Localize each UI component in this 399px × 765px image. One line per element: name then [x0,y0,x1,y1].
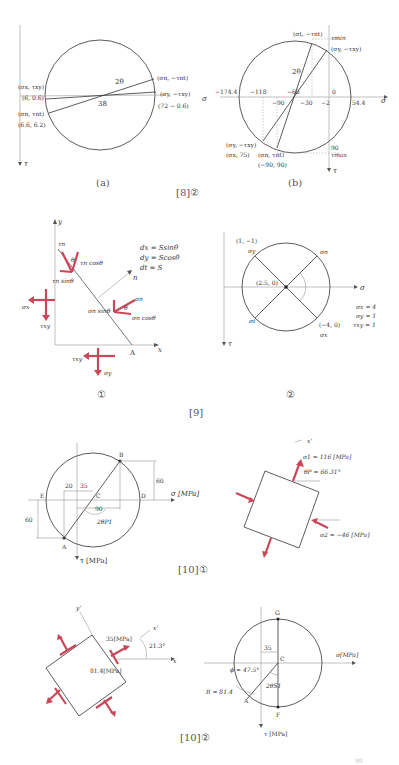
theta-p-label: θP = 66.31° [304,468,341,475]
point-sx-txy: (σx, τxy) [18,83,44,91]
tau-min-label: τmin [331,34,346,41]
sigma-n-sin-label: σn sinθ [88,307,111,314]
mohr-circle-a: τ 2θ 38 (σx, τxy) (6, 0.6) (σn, τnt) (6.… [18,25,190,188]
panel-1-label: ① [97,389,106,400]
sigma-axis-label: σ[MPa] [336,651,359,658]
tau-n-label: τn [58,240,65,247]
tau-axis-label: τ [MPa] [80,557,108,565]
tau-n-cos-label: τn cosθ [80,259,103,266]
principal-stress-element: x' σ1 = 116 [MPa] θP = 66.31° σ2 = −46 [… [236,437,370,558]
x-axis-label: x [173,657,177,664]
radius-label: R = 81.4 [205,688,233,695]
dim-90: 90 [95,505,103,512]
tick-neg-90: −90 [272,99,285,106]
dim-60-left: 60 [25,516,33,523]
x-prime-axis-label: x' [307,437,312,444]
normal-81-4-label: 81.4[MPa] [90,667,122,674]
figure-10-2-caption: [10]② [180,732,210,743]
subfig-b-label: (b) [288,177,302,188]
dim-35: 35 [80,482,88,489]
point-st-neg-tnt: (σt, −τnt) [293,30,323,37]
point-sn-tnt: (σn, τnt) [18,110,44,117]
tick-90: 90 [331,144,339,151]
point-A: A [243,697,249,704]
sigma-y-point-label: σy [248,247,256,255]
tick-neg-2: −2 [321,99,330,106]
phi-label: ϕ = 47.5° [230,666,259,674]
point-sx-txy-value: (6, 0.6) [22,94,44,101]
tau-xy-label-bottom: τxy [72,355,83,363]
tau-axis-label: τ [228,340,232,348]
y-prime-axis-label: y' [75,604,81,612]
sigma-y-label: σy [104,369,112,377]
theta-label-2: θ [124,304,128,311]
tau-axis-label: τ [24,160,28,168]
point-B: B [119,451,124,458]
equation-dx: dx = Ssinθ [140,244,179,252]
figure-canvas: τ 2θ 38 (σx, τxy) (6, 0.6) (σn, τnt) (6.… [0,0,399,765]
mohr-circle-9-2: τ σ (1, −1) σy σn (2.5, 0) σt (−4, 0) σx… [222,232,376,400]
given-sigma-y: σy = 1 [356,312,376,320]
x-axis-label: x [158,346,162,354]
angle-2theta-label: 2θ [115,78,124,86]
point-E: E [40,492,44,499]
mohr-circle-10-1: σ [MPa] τ [MPa] 20 35 90 60 60 A B C D E… [25,443,199,565]
shear-35-label: 35[MPa] [106,635,132,642]
tick-neg-118: −118 [250,88,267,95]
sigma-n-cos-label: σn cosθ [132,314,156,321]
point-A: A [61,543,67,550]
tick-zero: 0 [332,88,336,95]
sigma-axis-label: σ [MPa] [171,490,199,498]
sigma-2-label: σ2 = −46 [MPa] [320,531,370,538]
tick-neg-60: −60 [287,88,300,95]
point-D: D [141,492,146,499]
page-number: 99 [355,757,363,764]
point-A-label: A [129,349,136,357]
sigma-axis-label: σ [381,97,386,105]
sigma-n-point-label: σn [320,248,328,255]
point-sn-neg-tnt: (σn, −τnt) [157,74,188,81]
given-tau-xy: τxy = 1 [353,321,376,329]
tau-n-sin-label: τn sinθ [52,277,74,284]
sigma-axis-label-left: σ [202,95,207,103]
mohr-circle-10-2: σ[MPa] τ [MPa] G C F A 35 ϕ = 47.5° R = … [204,607,359,737]
normal-label: n [133,274,138,282]
mohr-circle-b: σ σ τ (σt, −τnt) τmin (σy, −τxy) 2θ −174… [202,25,388,188]
center-label: 38 [98,100,107,108]
dim-60-right: 60 [156,477,164,484]
point-neg90-90: (−90, 90) [258,161,287,168]
point-C: C [280,655,285,662]
point-sn-tnt-value: (6.6, 6.2) [18,121,46,128]
tau-axis-label: τ [MPa] [264,730,287,737]
dim-35: 35 [264,644,272,651]
point-sy-neg-txy-bottom: (σy, −τxy) [226,141,256,149]
equation-dt: dt = S [140,264,163,272]
figure-10-1-caption: [10]① [178,564,208,575]
point-sy-neg-txy-top: (σy, −τxy) [331,45,361,53]
angle-21-3-label: 21.3° [149,642,165,649]
point-F: F [276,711,280,718]
sigma-1-label: σ1 = 116 [MPa] [303,453,352,460]
sigma-t-point-label: σt [249,317,256,324]
sigma-x-point-label: σx [320,331,328,338]
tau-max-label: τmax [331,151,348,158]
rotated-stress-element: y' x x' 21.3° 35[MPa] 81.4[MPa] [46,604,177,717]
tau-axis-label: τ [333,167,337,175]
point-1-neg1: (1, −1) [236,237,257,244]
panel-2-label: ② [286,389,295,400]
x-prime-axis-label: x' [153,624,158,631]
tau-xy-label-left: τxy [40,322,51,330]
point-C: C [96,492,101,499]
angle-2theta-p1: 2θP1 [96,518,112,525]
point-sx-75: (σx, 75) [226,151,250,158]
tick-54-4: 54.4 [352,99,366,106]
point-G: G [275,609,280,616]
subfig-a-label: (a) [96,177,110,188]
figure-8-2-caption: [8]② [176,187,199,198]
tick-neg-30: −30 [300,99,313,106]
given-sigma-x: σx = 4 [356,303,376,310]
angle-2theta-label: 2θ [292,68,301,76]
tick-neg-174-4: −174.4 [215,88,237,95]
center-label: (2.5, 0) [256,279,278,286]
stress-element-diagram: y x A n dx = Ssinθ dy = Scosθ dt = S τn … [22,218,180,400]
